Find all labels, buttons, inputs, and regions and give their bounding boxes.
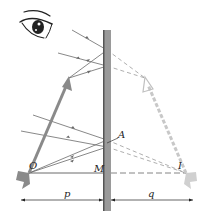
object-arrow — [16, 76, 72, 189]
label-distance-p: p — [64, 189, 70, 199]
label-object-o: O — [29, 161, 37, 171]
label-distance-q: q — [148, 189, 154, 199]
plane-mirror — [103, 30, 111, 211]
image-arrow — [143, 77, 197, 189]
label-point-a: A — [118, 130, 125, 140]
label-mirror-m: M — [94, 164, 104, 174]
label-image-i: I — [178, 161, 182, 171]
eye-icon — [20, 11, 52, 38]
virtual-rays — [107, 50, 186, 173]
light-rays — [21, 30, 107, 173]
mirror-diagram — [0, 0, 212, 211]
